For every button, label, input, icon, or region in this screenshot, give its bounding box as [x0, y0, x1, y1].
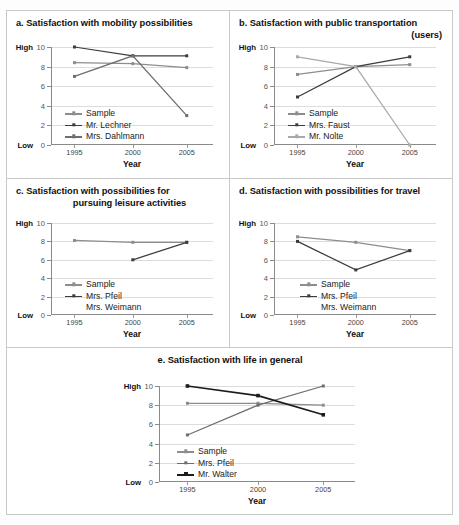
series-marker	[73, 46, 76, 49]
series-marker	[131, 62, 134, 65]
y-axis-tick-label: 4	[149, 439, 153, 448]
legend-marker-icon	[65, 131, 82, 142]
y-axis-tick-label: 6	[41, 255, 45, 264]
panel-grid: a. Satisfaction with mobility possibilit…	[6, 10, 453, 515]
y-axis-tick-label: 6	[264, 82, 268, 91]
x-axis-tick-label: 2005	[179, 148, 195, 157]
legend-label: Sample	[198, 446, 227, 458]
chart-panel-e: e. Satisfaction with life in general 024…	[6, 347, 453, 515]
legend-item: Mrs. Faust	[288, 120, 350, 132]
y-axis-high-label: High	[16, 219, 33, 228]
series-marker	[256, 394, 260, 398]
legend-item: Mrs. Dahlmann	[65, 131, 144, 143]
y-axis-tick-label: 2	[41, 292, 45, 301]
legend-marker-icon	[300, 291, 317, 302]
panel-e-legend: SampleMrs. PfeilMr. Walter	[177, 446, 237, 481]
y-axis-low-label: Low	[240, 311, 256, 320]
series-line	[297, 237, 409, 251]
series-line	[187, 386, 323, 415]
legend-marker-icon	[288, 120, 305, 131]
panel-b-legend: SampleMrs. FaustMr. Nolte	[288, 108, 350, 143]
series-marker	[186, 384, 190, 388]
x-axis-tick-label: 1995	[66, 318, 82, 327]
legend-item: Mrs. Pfeil	[177, 458, 237, 470]
chart-panel-d: d. Satisfaction with possibilities for t…	[229, 178, 453, 348]
series-marker	[185, 114, 188, 117]
series-marker	[185, 241, 188, 244]
panel-c-title-line1: c. Satisfaction with possibilities for	[16, 185, 221, 197]
figure-root: a. Satisfaction with mobility possibilit…	[0, 0, 459, 525]
legend-item: Sample	[177, 446, 237, 458]
y-axis-tick-label: 2	[264, 121, 268, 130]
panel-d-legend: SampleMrs. PfeilMrs. Weimann	[300, 279, 376, 314]
legend-label: Mr. Lechner	[86, 120, 131, 132]
series-line	[187, 386, 323, 435]
series-marker	[256, 404, 259, 407]
x-axis-tick-label: 2000	[348, 318, 364, 327]
y-axis-high-label: High	[124, 382, 141, 391]
legend-item: Sample	[65, 108, 144, 120]
x-axis-tick-label: 2000	[125, 148, 141, 157]
series-line	[297, 241, 409, 270]
legend-item: Mr. Nolte	[288, 131, 350, 143]
y-axis-tick-label: 8	[41, 62, 45, 71]
y-axis-tick-label: 4	[41, 274, 45, 283]
y-axis-tick-label: 6	[41, 82, 45, 91]
legend-label: Sample	[321, 279, 350, 291]
y-axis-tick-label: 0	[41, 311, 45, 320]
x-axis-title: Year	[123, 159, 141, 169]
y-axis-tick-label: 2	[264, 292, 268, 301]
series-marker	[322, 404, 325, 407]
series-marker	[321, 413, 325, 417]
series-marker	[73, 61, 76, 64]
legend-label: Mrs. Dahlmann	[86, 131, 144, 143]
series-marker	[322, 385, 325, 388]
y-axis-low-label: Low	[17, 311, 33, 320]
series-line	[74, 56, 186, 116]
series-marker	[296, 235, 299, 238]
x-axis-tick-label: 2005	[179, 318, 195, 327]
x-axis-title: Year	[123, 329, 141, 339]
legend-item: Sample	[288, 108, 350, 120]
panel-d-title: d. Satisfaction with possibilities for t…	[230, 179, 452, 197]
x-axis-tick-label: 2000	[125, 318, 141, 327]
y-axis-tick	[270, 315, 274, 316]
x-axis-tick-label: 2000	[250, 485, 266, 494]
series-marker	[408, 249, 411, 252]
legend-label: Mrs. Weimann	[86, 302, 141, 314]
y-axis-tick-label: 8	[149, 401, 153, 410]
series-marker	[354, 241, 357, 244]
series-marker	[186, 402, 189, 405]
legend-marker-icon	[300, 279, 317, 290]
series-marker	[131, 241, 134, 244]
y-axis-tick-label: 2	[41, 121, 45, 130]
y-axis-tick-label: 4	[264, 101, 268, 110]
series-marker	[296, 240, 299, 243]
y-axis-tick	[47, 145, 51, 146]
legend-item: Mrs. Weimann	[300, 302, 376, 314]
y-axis-tick-label: 10	[260, 43, 268, 52]
legend-label: Sample	[86, 279, 115, 291]
series-marker	[185, 66, 188, 69]
legend-marker-icon	[65, 279, 82, 290]
y-axis-high-label: High	[16, 43, 33, 52]
series-marker	[354, 65, 357, 68]
series-marker	[408, 63, 411, 66]
x-axis-tick-label: 1995	[179, 485, 195, 494]
legend-marker-icon	[177, 469, 194, 480]
x-axis-tick-label: 1995	[289, 148, 305, 157]
legend-item: Mr. Lechner	[65, 120, 144, 132]
x-axis-title: Year	[346, 329, 364, 339]
panel-a-legend: SampleMr. LechnerMrs. Dahlmann	[65, 108, 144, 143]
legend-marker-icon	[288, 108, 305, 119]
x-axis-tick-label: 2000	[348, 148, 364, 157]
legend-marker-icon	[177, 458, 194, 469]
panel-c-title: c. Satisfaction with possibilities for p…	[7, 179, 229, 209]
y-axis-low-label: Low	[17, 141, 33, 150]
chart-panel-c: c. Satisfaction with possibilities for p…	[6, 178, 230, 348]
series-line	[74, 240, 186, 242]
legend-marker-icon	[65, 108, 82, 119]
chart-panel-b: b. Satisfaction with public transportati…	[229, 10, 453, 179]
legend-marker-icon	[300, 302, 317, 313]
y-axis-tick-label: 10	[37, 219, 45, 228]
